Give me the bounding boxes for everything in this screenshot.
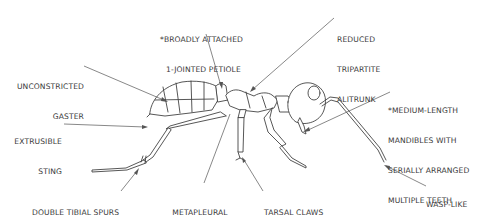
hind-tibia (143, 128, 171, 162)
label-tarsal-claws: TARSAL CLAWS TOOTHED (264, 188, 323, 222)
label-line: MANDIBLES WITH (388, 136, 469, 146)
head (288, 83, 326, 124)
label-line: SERIALLY ARRANGED (388, 166, 469, 176)
label-antenna: WASP-LIKE ANTENNA (426, 180, 467, 222)
label-line: REDUCED (337, 35, 380, 45)
label-line: EXTRUSIBLE (8, 137, 62, 147)
label-sting: EXTRUSIBLE STING (8, 117, 62, 197)
label-line: *MEDIUM-LENGTH (388, 106, 469, 116)
label-line: TARSAL CLAWS (264, 208, 323, 218)
label-alitrunk: REDUCED TRIPARTITE ALITRUNK (337, 15, 380, 125)
label-petiole: *BROADLY ATTACHED 1-JOINTED PETIOLE (160, 15, 243, 95)
label-line: METAPLEURAL (160, 208, 240, 218)
label-line: WASP-LIKE (426, 200, 467, 210)
sting (147, 114, 150, 117)
label-line: STING (8, 167, 62, 177)
label-tibial-spurs: DOUBLE TIBIAL SPURS (32, 188, 119, 222)
compound-eye (308, 86, 320, 100)
label-line: *BROADLY ATTACHED (160, 35, 243, 45)
mid-tibia (238, 118, 244, 152)
label-line: UNCONSTRICTED (12, 82, 84, 92)
label-line: ALITRUNK (337, 95, 380, 105)
fore-leg (264, 108, 286, 146)
label-line: TRIPARTITE (337, 65, 380, 75)
label-line: DOUBLE TIBIAL SPURS (32, 208, 119, 218)
label-metapleural-gland: METAPLEURAL GLAND (160, 188, 240, 222)
label-line: 1-JOINTED PETIOLE (160, 65, 243, 75)
ant-anatomy-diagram: *BROADLY ATTACHED 1-JOINTED PETIOLE REDU… (0, 0, 482, 222)
